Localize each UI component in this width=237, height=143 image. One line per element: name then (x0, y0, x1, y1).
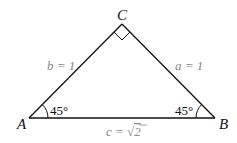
angle-label-a: 45° (50, 103, 68, 118)
side-label-b: b = 1 (47, 58, 75, 73)
angle-arc-a (42, 105, 48, 118)
triangle-diagram: A B C b = 1 a = 1 c = √2 45° 45° (0, 0, 237, 143)
side-label-a: a = 1 (175, 58, 203, 73)
side-label-c: c = √2 (106, 124, 141, 139)
angle-label-b: 45° (175, 103, 193, 118)
angle-arc-b (196, 105, 202, 118)
vertex-label-b: B (219, 116, 228, 132)
right-angle-marker (114, 32, 130, 40)
vertex-label-a: A (16, 116, 27, 132)
vertex-label-c: C (117, 7, 128, 23)
side-b-line (29, 24, 122, 118)
